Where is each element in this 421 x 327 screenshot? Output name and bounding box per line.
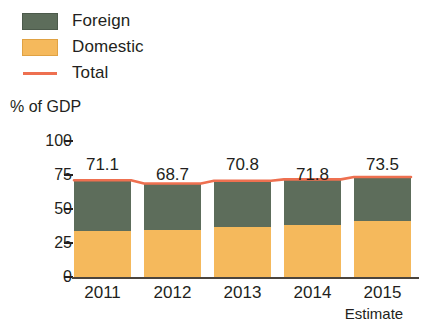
bar-2012 (144, 184, 201, 277)
x-axis-baseline (72, 277, 419, 279)
bar-segment-domestic-2013 (214, 227, 271, 277)
bar-value-label-2012: 68.7 (138, 165, 208, 185)
bar-segment-domestic-2014 (284, 225, 341, 277)
bar-value-label-2015: 73.5 (348, 155, 418, 175)
bar-segment-foreign-2011 (74, 180, 131, 230)
y-tick-dash-25 (64, 242, 73, 244)
y-tick-label-50: 50 (10, 200, 72, 218)
y-tick-label-100: 100 (10, 132, 72, 150)
bar-segment-domestic-2015 (354, 221, 411, 277)
plot-area: 100 75 50 25 0 71.1201168.7201270.820137… (0, 0, 421, 327)
y-tick-dash-100 (64, 140, 73, 142)
bar-segment-foreign-2014 (284, 179, 341, 224)
x-axis-label-2012: 2012 (138, 283, 208, 303)
bar-2013 (214, 181, 271, 277)
bar-segment-foreign-2015 (354, 177, 411, 221)
chart-container: Foreign Domestic Total % of GDP 100 75 5… (0, 0, 421, 327)
bar-2015 (354, 177, 411, 277)
bar-2014 (284, 179, 341, 277)
y-tick-label-25: 25 (10, 234, 72, 252)
bar-segment-foreign-2013 (214, 181, 271, 228)
bar-value-label-2014: 71.8 (278, 165, 348, 185)
x-axis-label-2014: 2014 (278, 283, 348, 303)
bar-segment-domestic-2012 (144, 230, 201, 277)
x-axis-label-2015: 2015 (348, 283, 418, 303)
x-axis-label-2013: 2013 (208, 283, 278, 303)
y-tick-label-0: 0 (10, 268, 72, 286)
bar-value-label-2011: 71.1 (68, 155, 138, 175)
x-axis-label-2011: 2011 (68, 283, 138, 303)
bar-segment-domestic-2011 (74, 231, 131, 277)
bar-value-label-2013: 70.8 (208, 155, 278, 175)
bar-2011 (74, 180, 131, 277)
bar-segment-foreign-2012 (144, 184, 201, 231)
y-tick-label-75: 75 (10, 166, 72, 184)
y-tick-dash-50 (64, 208, 73, 210)
estimate-note: Estimate (330, 305, 418, 322)
